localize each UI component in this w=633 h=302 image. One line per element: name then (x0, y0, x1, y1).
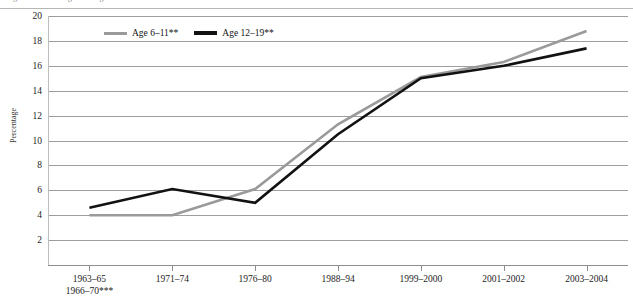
chart-figure: Figure — overweight among children and a… (0, 0, 633, 302)
x-tick (255, 265, 256, 271)
legend-swatch-icon (194, 31, 217, 35)
x-tick (421, 265, 422, 271)
y-tick-label: 20 (16, 11, 42, 21)
y-tick-label: 18 (16, 36, 42, 46)
series-line (89, 48, 586, 207)
x-tick (172, 265, 173, 271)
y-tick-label: 12 (16, 111, 42, 121)
x-tick-label-line2: 1966–70*** (29, 286, 149, 298)
x-tick (338, 265, 339, 271)
x-tick-label: 2003–2004 (527, 274, 633, 286)
y-tick-label: 2 (16, 235, 42, 245)
x-axis-ticks (48, 265, 628, 271)
legend-label: Age 6–11** (132, 28, 178, 38)
chart-legend: Age 6–11**Age 12–19** (104, 28, 274, 38)
x-tick (504, 265, 505, 271)
y-tick-label: 4 (16, 210, 42, 220)
legend-item[interactable]: Age 12–19** (194, 28, 273, 38)
x-axis-tick-labels: 1963–651966–70***1971–741976–801988–9419… (0, 274, 633, 302)
x-tick (89, 265, 90, 271)
plot-area (48, 16, 628, 265)
series-lines (48, 16, 628, 265)
y-tick-label: 8 (16, 160, 42, 170)
series-line (89, 31, 586, 215)
x-tick (587, 265, 588, 271)
y-tick-label: 16 (16, 61, 42, 71)
y-tick-label: 14 (16, 86, 42, 96)
y-tick-label: 10 (16, 136, 42, 146)
legend-item[interactable]: Age 6–11** (104, 28, 178, 38)
legend-label: Age 12–19** (222, 28, 273, 38)
legend-swatch-icon (104, 32, 127, 35)
y-tick-label: 6 (16, 185, 42, 195)
